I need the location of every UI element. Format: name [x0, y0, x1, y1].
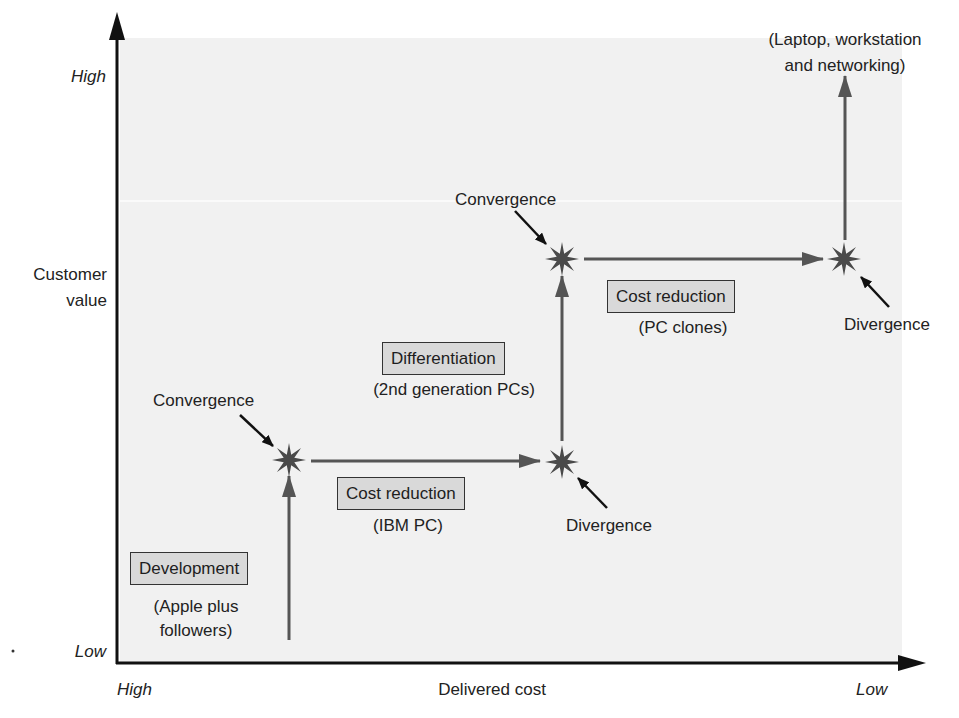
- pointer-convergence-1: [240, 415, 273, 446]
- stage-path: [289, 76, 845, 640]
- x-axis-high-label: High: [117, 679, 152, 700]
- event-label-divergence-1: Divergence: [566, 515, 652, 536]
- pointer-convergence-2: [515, 211, 546, 244]
- x-axis: [116, 655, 926, 671]
- star-icon-convergence-2: [545, 242, 579, 276]
- event-label-convergence-2: Convergence: [455, 189, 556, 210]
- y-axis: [109, 12, 125, 664]
- event-label-divergence-2: Divergence: [844, 314, 930, 335]
- star-icon-divergence-1: [545, 445, 579, 479]
- stage-subtitle-development-line2: followers): [160, 620, 233, 641]
- stage-box-cost-reduction-clones: Cost reduction: [607, 280, 735, 313]
- y-axis-label-line2: value: [0, 290, 107, 311]
- y-axis-high-label: High: [50, 66, 106, 87]
- y-axis-low-label: Low: [50, 641, 106, 662]
- stage-subtitle-ibm-pc: (IBM PC): [373, 515, 443, 536]
- event-label-convergence-1: Convergence: [153, 390, 254, 411]
- endpoint-label-line2: and networking): [785, 55, 906, 76]
- x-axis-label: Delivered cost: [438, 679, 546, 700]
- stage-subtitle-development-line1: (Apple plus: [153, 596, 238, 617]
- stray-dot: [12, 650, 15, 653]
- star-icon-convergence-1: [272, 443, 306, 477]
- y-axis-label-line1: Customer: [0, 264, 107, 285]
- stage-subtitle-pc-clones: (PC clones): [639, 317, 728, 338]
- stage-box-development: Development: [130, 552, 248, 585]
- x-axis-arrow-icon: [898, 655, 926, 671]
- stage-subtitle-2nd-gen-pcs: (2nd generation PCs): [373, 379, 535, 400]
- endpoint-label-line1: (Laptop, workstation: [768, 29, 921, 50]
- star-icon-divergence-2: [827, 242, 861, 276]
- x-axis-low-label: Low: [856, 679, 887, 700]
- pointer-divergence-2: [861, 277, 889, 307]
- y-axis-arrow-icon: [109, 12, 125, 40]
- stage-box-cost-reduction-ibm: Cost reduction: [337, 477, 465, 510]
- pointer-divergence-1: [578, 478, 607, 508]
- stage-box-differentiation: Differentiation: [382, 342, 505, 375]
